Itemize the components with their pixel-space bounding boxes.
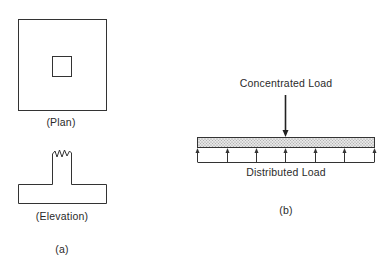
up-arrow-icon bbox=[284, 148, 288, 162]
distributed-load-label: Distributed Load bbox=[246, 166, 326, 178]
footing-elevation-outline bbox=[19, 153, 107, 204]
up-arrow-icon bbox=[226, 148, 230, 162]
plan-label: (Plan) bbox=[46, 116, 75, 128]
distributed-load-arrows bbox=[196, 148, 377, 162]
plan-view bbox=[19, 20, 107, 111]
up-arrow-icon bbox=[373, 148, 377, 162]
column-outline bbox=[53, 57, 72, 77]
beam-diagram bbox=[196, 95, 377, 163]
panel-a-label: (a) bbox=[55, 243, 68, 255]
elevation-view bbox=[19, 150, 107, 204]
up-arrow-icon bbox=[196, 148, 200, 162]
up-arrow-icon bbox=[255, 148, 259, 162]
footing-outline bbox=[19, 20, 107, 111]
panel-b-label: (b) bbox=[279, 204, 292, 216]
up-arrow-icon bbox=[343, 148, 347, 162]
elevation-label: (Elevation) bbox=[36, 210, 88, 222]
concentrated-load-arrow-icon bbox=[283, 95, 289, 137]
beam bbox=[198, 138, 375, 148]
up-arrow-icon bbox=[314, 148, 318, 162]
break-line-icon bbox=[53, 150, 72, 157]
diagram-canvas bbox=[0, 0, 388, 267]
concentrated-load-label: Concentrated Load bbox=[240, 77, 333, 89]
